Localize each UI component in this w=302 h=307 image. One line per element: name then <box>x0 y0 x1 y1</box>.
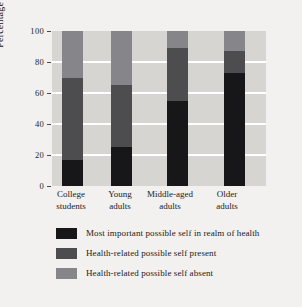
bar-middle-aged-adults <box>167 31 188 186</box>
bar-segment-college-students-most-important-possible-self-in-realm-of-health <box>62 160 83 186</box>
legend-item-most-important: Most important possible self in realm of… <box>56 224 288 242</box>
y-tick-mark-100 <box>47 31 51 32</box>
x-label-line-1: Older <box>196 189 258 201</box>
legend-swatch-most-important <box>56 228 77 239</box>
legend-label-most-important: Most important possible self in realm of… <box>86 228 259 238</box>
y-tick-mark-60 <box>47 93 51 94</box>
bar-young-adults <box>111 31 132 186</box>
legend-item-present: Health-related possible self present <box>56 244 288 262</box>
x-label-line-1: Middle-aged <box>139 189 201 201</box>
legend-label-present: Health-related possible self present <box>86 248 216 258</box>
bar-segment-middle-aged-adults-most-important-possible-self-in-realm-of-health <box>167 101 188 186</box>
bar-segment-young-adults-most-important-possible-self-in-realm-of-health <box>111 147 132 186</box>
x-axis-labels: College students Young adults Middle-age… <box>52 189 266 217</box>
bar-segment-young-adults-health-related-possible-self-absent <box>111 31 132 85</box>
bar-college-students <box>62 31 83 186</box>
x-label-line-2: adults <box>139 201 201 213</box>
bar-segment-middle-aged-adults-health-related-possible-self-absent <box>167 31 188 48</box>
chart-legend: Most important possible self in realm of… <box>56 224 288 284</box>
x-label-line-2: adults <box>196 201 258 213</box>
legend-swatch-absent <box>56 268 77 279</box>
plot-area <box>52 31 266 186</box>
chart-figure: Percentage of sample 100 80 60 40 20 0 C… <box>0 0 302 307</box>
bar-older-adults <box>224 31 245 186</box>
bar-segment-older-adults-health-related-possible-self-absent <box>224 31 245 51</box>
x-label-middle-aged-adults: Middle-aged adults <box>139 189 201 212</box>
bar-group <box>52 31 266 186</box>
y-tick-label-100: 100 <box>14 26 44 36</box>
y-tick-label-60: 60 <box>14 88 44 98</box>
y-tick-label-80: 80 <box>14 57 44 67</box>
y-tick-mark-40 <box>47 124 51 125</box>
y-tick-mark-80 <box>47 62 51 63</box>
legend-item-absent: Health-related possible self absent <box>56 264 288 282</box>
bar-segment-college-students-health-related-possible-self-present <box>62 78 83 160</box>
y-tick-mark-0 <box>47 186 51 187</box>
bar-segment-college-students-health-related-possible-self-absent <box>62 31 83 78</box>
legend-swatch-present <box>56 248 77 259</box>
y-axis-title: Percentage of sample <box>0 0 5 62</box>
bar-segment-young-adults-health-related-possible-self-present <box>111 85 132 147</box>
y-tick-mark-20 <box>47 155 51 156</box>
y-tick-label-40: 40 <box>14 119 44 129</box>
y-tick-label-20: 20 <box>14 150 44 160</box>
bar-segment-middle-aged-adults-health-related-possible-self-present <box>167 48 188 101</box>
x-label-older-adults: Older adults <box>196 189 258 212</box>
bar-segment-older-adults-health-related-possible-self-present <box>224 51 245 73</box>
bar-segment-older-adults-most-important-possible-self-in-realm-of-health <box>224 73 245 186</box>
legend-label-absent: Health-related possible self absent <box>86 268 213 278</box>
